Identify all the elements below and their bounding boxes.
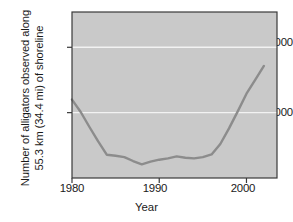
chart-figure: Number of alligators observed along 55.3… [0,0,293,222]
x-tick-label-2000: 2000 [220,182,266,194]
x-axis-title: Year [0,201,293,213]
x-tick-label-1990: 1990 [132,182,178,194]
x-tick-label-1980: 1980 [49,182,95,194]
